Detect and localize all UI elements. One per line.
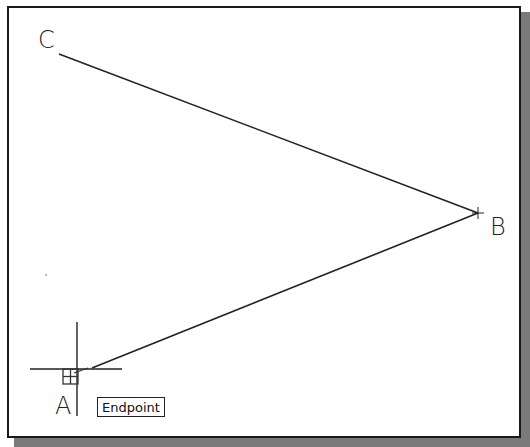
point-label-c: C (38, 26, 55, 54)
line-b-a[interactable] (92, 213, 478, 368)
point-label-b: B (490, 213, 506, 241)
drawing-canvas[interactable]: C B A (0, 0, 530, 447)
stray-pixel (45, 274, 47, 276)
point-b-marker-icon (472, 207, 484, 219)
object-snap-tooltip: Endpoint (97, 397, 165, 417)
point-label-a: A (55, 392, 71, 420)
line-c-b[interactable] (59, 54, 478, 213)
endpoint-snap-marker-icon (63, 368, 88, 384)
